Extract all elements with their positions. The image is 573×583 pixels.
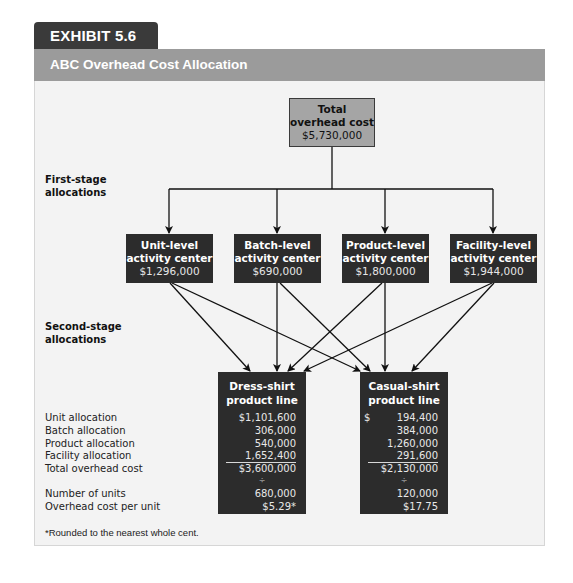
casual-unit-allocation: $ 194,400 (364, 411, 438, 424)
row-label-batch-allocation: Batch allocation (45, 424, 126, 437)
dress-batch-allocation: 306,000 (218, 424, 296, 437)
facility-level-activity-center: Facility-level activity center $1,944,00… (450, 234, 537, 283)
row-label-overhead-cost-per-unit: Overhead cost per unit (45, 500, 160, 513)
casual-number-of-units: 120,000 (360, 487, 438, 500)
dress-facility-allocation: 1,652,400 (226, 449, 296, 463)
row-label-facility-allocation: Facility allocation (45, 449, 131, 462)
second-stage-label: Second-stage allocations (45, 321, 122, 346)
product-level-activity-center: Product-level activity center $1,800,000 (342, 234, 429, 283)
casual-divide-symbol: ÷ (360, 474, 448, 487)
unit-level-activity-center: Unit-level activity center $1,296,000 (126, 234, 213, 283)
casual-overhead-cost-per-unit: $17.75 (360, 500, 438, 513)
casual-unit-allocation-value: 194,400 (397, 411, 438, 424)
total-overhead-title-2: overhead cost (290, 116, 374, 129)
row-label-unit-allocation: Unit allocation (45, 411, 117, 424)
row-label-total-overhead-cost: Total overhead cost (45, 462, 143, 475)
total-overhead-title-1: Total (290, 103, 374, 116)
first-stage-label: First-stage allocations (45, 174, 107, 199)
dress-overhead-cost-per-unit: $5.29* (218, 500, 296, 513)
total-overhead-box: Total overhead cost $5,730,000 (289, 98, 375, 147)
exhibit-title: ABC Overhead Cost Allocation (34, 49, 545, 81)
total-overhead-value: $5,730,000 (290, 129, 374, 142)
dress-divide-symbol: ÷ (218, 474, 306, 487)
exhibit-label: EXHIBIT 5.6 (34, 22, 158, 49)
casual-batch-allocation: 384,000 (360, 424, 438, 437)
dress-unit-allocation: $1,101,600 (218, 411, 296, 424)
dress-number-of-units: 680,000 (218, 487, 296, 500)
row-label-number-of-units: Number of units (45, 487, 126, 500)
batch-level-activity-center: Batch-level activity center $690,000 (234, 234, 321, 283)
casual-facility-allocation: 291,600 (368, 449, 438, 463)
casual-unit-allocation-dollar: $ (364, 411, 370, 424)
footnote: *Rounded to the nearest whole cent. (45, 527, 199, 538)
